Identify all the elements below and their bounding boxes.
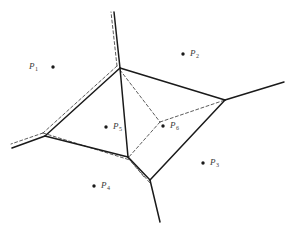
site-label-base-p2: P	[190, 48, 196, 58]
voronoi-unbounded-rays	[12, 12, 284, 222]
delaunay-dashed-edges	[11, 12, 225, 183]
site-label-p4: P4	[101, 181, 110, 190]
site-dot-p3	[201, 161, 204, 164]
e-top-left	[45, 68, 120, 136]
site-label-base-p1: P	[29, 61, 35, 71]
d-top-left	[43, 66, 117, 133]
site-dot-p4	[92, 184, 95, 187]
site-label-base-p6: P	[170, 120, 176, 130]
e-right-bottom	[150, 100, 225, 180]
site-dot-p6	[161, 124, 164, 127]
e-top-down	[120, 68, 128, 157]
site-label-subscript-p4: 4	[107, 185, 110, 191]
site-label-p3: P3	[210, 158, 219, 167]
site-label-base-p5: P	[113, 121, 119, 131]
site-label-p5: P5	[113, 122, 122, 131]
e-lowerleft-bot	[128, 157, 150, 180]
site-label-subscript-p5: 5	[119, 126, 122, 132]
site-label-p6: P6	[170, 121, 179, 130]
site-dot-p1	[51, 65, 54, 68]
site-label-subscript-p6: 6	[176, 125, 179, 131]
e-left-bottom	[45, 136, 128, 157]
site-label-base-p4: P	[101, 180, 107, 190]
site-label-p1: P1	[29, 62, 38, 71]
site-label-subscript-p3: 3	[216, 162, 219, 168]
d-center-lowleft	[128, 122, 160, 158]
ray-up	[114, 12, 120, 68]
site-label-subscript-p1: 1	[35, 66, 38, 72]
ray-upper-right	[225, 82, 284, 100]
site-dot-p5	[104, 125, 107, 128]
site-label-subscript-p2: 2	[196, 53, 199, 59]
site-points	[51, 52, 204, 187]
site-label-base-p3: P	[210, 157, 216, 167]
site-dot-p2	[181, 52, 184, 55]
voronoi-solid-edges	[45, 68, 225, 180]
voronoi-diagram-figure: P1P2P3P4P5P6	[0, 0, 288, 229]
d-top-ray	[111, 12, 117, 66]
site-label-p2: P2	[190, 49, 199, 58]
voronoi-delaunay-svg	[0, 0, 288, 229]
e-top-right	[120, 68, 225, 100]
ray-down	[150, 180, 160, 222]
